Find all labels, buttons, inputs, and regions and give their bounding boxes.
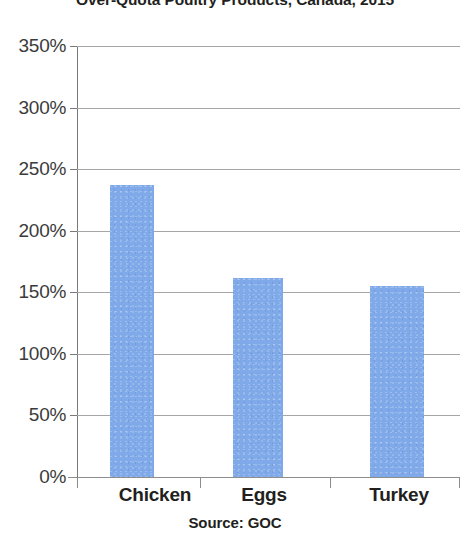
- y-axis-tick-label: 150%: [0, 281, 66, 303]
- gridline: [77, 46, 460, 47]
- x-axis-label-turkey: Turkey: [369, 484, 429, 506]
- bar-chart: Over-Quota Poultry Products, Canada, 201…: [0, 0, 470, 546]
- y-axis-labels: 0% 50% 100% 150% 200% 250% 300% 350%: [0, 0, 66, 546]
- x-axis-labels: Chicken Eggs Turkey: [0, 484, 470, 512]
- x-axis-label-eggs: Eggs: [241, 484, 287, 506]
- y-axis-tick-label: 50%: [0, 404, 66, 426]
- gridline: [77, 169, 460, 170]
- bar-turkey: [370, 286, 424, 477]
- plot-area: [77, 46, 460, 477]
- y-axis-tick-label: 250%: [0, 158, 66, 180]
- y-axis-tick-label: 300%: [0, 97, 66, 119]
- source-note: Source: GOC: [0, 514, 470, 531]
- y-axis-tick-label: 200%: [0, 220, 66, 242]
- gridline: [77, 108, 460, 109]
- bar-eggs: [233, 278, 283, 478]
- bar-chicken: [110, 185, 154, 477]
- y-axis-tick-label: 100%: [0, 343, 66, 365]
- y-axis-tick-label: 350%: [0, 35, 66, 57]
- chart-title: Over-Quota Poultry Products, Canada, 201…: [0, 0, 470, 9]
- x-axis-label-chicken: Chicken: [119, 484, 192, 506]
